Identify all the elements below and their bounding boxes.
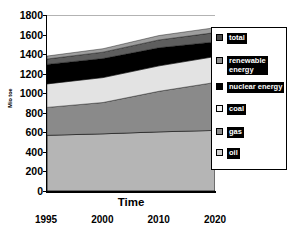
y-tick-label: 1800 bbox=[20, 10, 43, 20]
x-axis-labels: 1995200020102020 bbox=[46, 214, 224, 230]
legend-item-oil[interactable]: oil bbox=[216, 148, 240, 159]
legend-label: renewable energy bbox=[227, 56, 268, 75]
area-chart: Mio toe 18001600140012001000800600400200… bbox=[0, 0, 290, 238]
y-tick-mark bbox=[43, 191, 47, 192]
y-tick-mark bbox=[43, 35, 47, 36]
legend-label: total bbox=[227, 33, 247, 44]
x-tick-label: 1995 bbox=[35, 214, 57, 225]
y-tick-label: 800 bbox=[25, 108, 43, 118]
x-tick-label: 2010 bbox=[148, 214, 170, 225]
y-tick-mark bbox=[43, 93, 47, 94]
legend-item-gas[interactable]: gas bbox=[216, 127, 244, 138]
legend-swatch-icon bbox=[216, 128, 223, 135]
y-tick-mark bbox=[43, 74, 47, 75]
stacked-area-svg bbox=[47, 15, 215, 191]
y-tick-label: 1000 bbox=[20, 88, 43, 98]
plot-area bbox=[46, 15, 215, 191]
legend-swatch-icon bbox=[216, 83, 223, 90]
y-tick-mark bbox=[43, 171, 47, 172]
legend-item-renewable-energy[interactable]: renewable energy bbox=[216, 56, 268, 75]
legend-item-nuclear-energy[interactable]: nuclear energy bbox=[216, 82, 284, 93]
legend: totalrenewable energynuclear energycoalg… bbox=[211, 27, 287, 170]
legend-label: oil bbox=[227, 148, 240, 159]
legend-label: gas bbox=[227, 127, 244, 138]
y-tick-mark bbox=[43, 152, 47, 153]
y-tick-label: 1200 bbox=[20, 69, 43, 79]
y-tick-mark bbox=[43, 15, 47, 16]
legend-label: nuclear energy bbox=[227, 82, 284, 93]
y-tick-label: 400 bbox=[25, 147, 43, 157]
y-tick-label: 200 bbox=[25, 166, 43, 176]
legend-item-coal[interactable]: coal bbox=[216, 104, 246, 115]
y-tick-label: 1400 bbox=[20, 49, 43, 59]
y-tick-label: 600 bbox=[25, 127, 43, 137]
legend-swatch-icon bbox=[216, 57, 223, 64]
legend-label: coal bbox=[227, 104, 246, 115]
y-tick-mark bbox=[43, 113, 47, 114]
y-tick-label: 1600 bbox=[20, 30, 43, 40]
y-tick-mark bbox=[43, 132, 47, 133]
x-axis-title: Time bbox=[46, 196, 216, 208]
legend-swatch-icon bbox=[216, 34, 223, 41]
y-tick-mark bbox=[43, 54, 47, 55]
x-axis-line bbox=[46, 191, 216, 193]
legend-item-total[interactable]: total bbox=[216, 33, 247, 44]
legend-swatch-icon bbox=[216, 149, 223, 156]
x-tick-label: 2020 bbox=[204, 214, 226, 225]
area-band-oil bbox=[47, 130, 215, 191]
y-axis-labels: 180016001400120010008006004002000 bbox=[10, 0, 43, 195]
x-tick-label: 2000 bbox=[91, 214, 113, 225]
legend-swatch-icon bbox=[216, 105, 223, 112]
